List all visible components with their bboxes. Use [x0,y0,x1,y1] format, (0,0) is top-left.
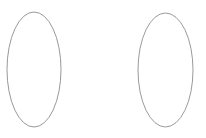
two-ellipses-figure [0,0,206,138]
drawing-canvas [0,0,206,138]
canvas-background [0,0,206,138]
